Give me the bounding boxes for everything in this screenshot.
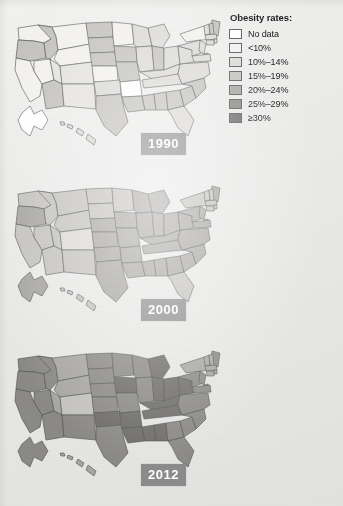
state-la (122, 427, 145, 443)
state-ks (92, 232, 118, 248)
legend-swatch (229, 29, 242, 39)
state-nj (199, 206, 206, 220)
legend-label: 15%–19% (248, 71, 288, 81)
state-va (178, 228, 210, 250)
state-az (42, 80, 64, 109)
legend-label: 10%–14% (248, 57, 288, 67)
us-map-2000 (8, 180, 224, 330)
state-hi (76, 294, 84, 302)
state-va (178, 393, 210, 415)
legend-label: <10% (248, 43, 271, 53)
legend-item: 20%–24% (229, 84, 292, 95)
state-hi (60, 122, 65, 125)
legend-swatch (229, 85, 242, 95)
map-panel-2000: 2000 (8, 180, 224, 330)
state-hi (67, 290, 73, 295)
state-ar (120, 411, 142, 428)
us-map-2012 (8, 345, 224, 495)
legend-label: ≥30% (248, 113, 271, 123)
legend-label: 20%–24% (248, 85, 288, 95)
state-nm (62, 250, 96, 275)
state-il (136, 212, 154, 238)
state-ia (114, 46, 137, 62)
state-ok (94, 80, 121, 96)
state-in (152, 212, 164, 236)
state-ia (114, 377, 137, 393)
state-al (154, 92, 168, 110)
state-ne (90, 383, 117, 397)
state-nj (199, 40, 206, 54)
state-nj (199, 371, 206, 385)
legend-swatch (229, 57, 242, 67)
map-panel-2012: 2012 (8, 345, 224, 495)
state-hi (60, 453, 65, 456)
state-ar (120, 246, 142, 263)
state-ok (94, 411, 121, 427)
state-fl (168, 272, 194, 302)
state-ok (94, 246, 121, 262)
states-group (15, 20, 220, 145)
state-ct (206, 206, 214, 211)
state-nd (86, 22, 113, 38)
state-ct (206, 40, 214, 45)
legend-item: No data (229, 28, 292, 39)
state-mo (116, 228, 140, 248)
legend-swatch (229, 71, 242, 81)
figure-page: 1990 2000 2012 Obesity rates: No data<10… (0, 0, 343, 506)
legend-item: 15%–19% (229, 70, 292, 81)
state-ct (206, 371, 214, 376)
state-nh (209, 354, 214, 366)
year-badge-1990: 1990 (141, 133, 186, 155)
state-nm (62, 84, 96, 109)
state-va (178, 62, 210, 84)
state-hi (86, 465, 96, 476)
state-mn (112, 22, 134, 46)
state-hi (76, 128, 84, 136)
legend-label: 25%–29% (248, 99, 288, 109)
state-in (152, 377, 164, 401)
state-hi (67, 455, 73, 460)
state-co (60, 228, 94, 250)
state-ri (214, 370, 217, 374)
legend-swatch (229, 43, 242, 53)
state-mn (112, 188, 134, 212)
state-sd (88, 203, 115, 219)
state-mn (112, 353, 134, 377)
legend-item: <10% (229, 42, 292, 53)
state-nd (86, 353, 113, 369)
state-ks (92, 397, 118, 413)
state-hi (76, 459, 84, 467)
state-in (152, 46, 164, 70)
state-hi (67, 124, 73, 129)
legend-item: 25%–29% (229, 98, 292, 109)
state-hi (60, 288, 65, 291)
state-mo (116, 393, 140, 413)
state-fl (168, 106, 194, 136)
state-ne (90, 218, 117, 232)
states-group (15, 351, 220, 476)
state-la (122, 96, 145, 112)
state-nd (86, 188, 113, 204)
state-ri (214, 39, 217, 43)
states-group (15, 186, 220, 311)
state-co (60, 393, 94, 415)
map-panel-1990: 1990 (8, 14, 224, 164)
state-ar (120, 80, 142, 97)
state-ks (92, 66, 118, 82)
year-badge-2000: 2000 (141, 299, 186, 321)
state-or (16, 206, 46, 227)
state-hi (86, 300, 96, 311)
state-la (122, 262, 145, 278)
state-hi (86, 134, 96, 145)
legend-item: 10%–14% (229, 56, 292, 67)
state-az (42, 246, 64, 275)
legend-label: No data (248, 29, 279, 39)
legend: Obesity rates: No data<10%10%–14%15%–19%… (229, 12, 292, 126)
state-co (60, 62, 94, 84)
state-ia (114, 212, 137, 228)
state-nh (209, 189, 214, 201)
state-ne (90, 52, 117, 66)
year-badge-2012: 2012 (141, 464, 186, 486)
us-map-1990 (8, 14, 224, 164)
state-al (154, 258, 168, 276)
